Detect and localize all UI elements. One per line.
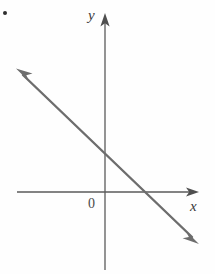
line-arrowhead-lower-right-icon	[183, 231, 199, 245]
origin-label: 0	[88, 197, 95, 211]
x-axis-label: x	[190, 199, 197, 214]
y-axis-label: y	[88, 8, 95, 23]
line-arrowhead-upper-left-icon	[16, 69, 33, 82]
coordinate-plane-graphic	[0, 0, 215, 274]
plotted-line	[23, 75, 192, 237]
figure-canvas: y x 0	[0, 0, 215, 274]
